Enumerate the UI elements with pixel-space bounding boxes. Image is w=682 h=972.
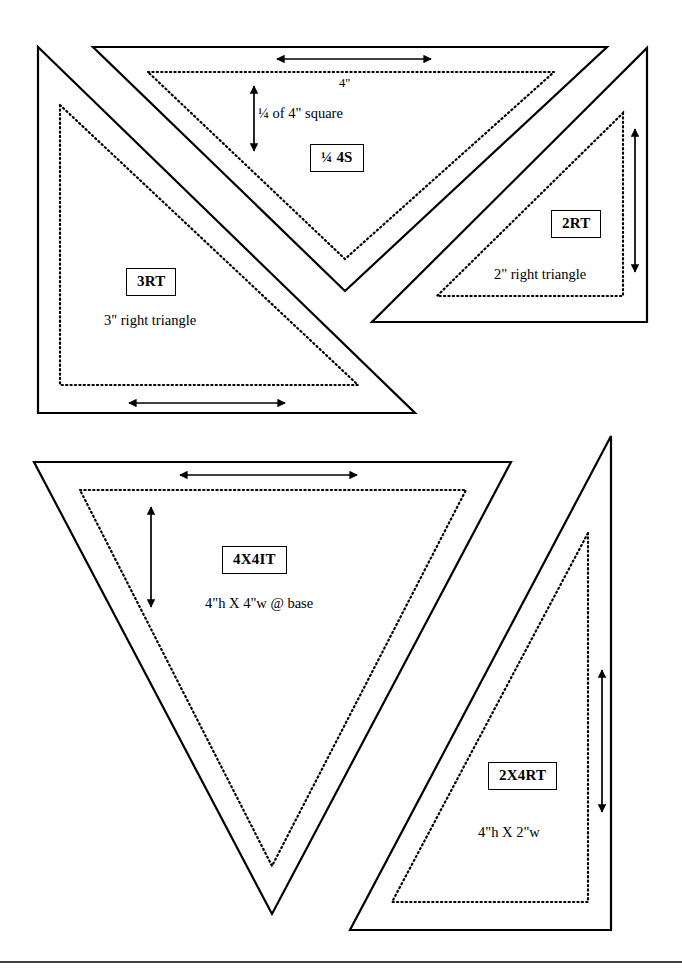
shape-4x4it-outline bbox=[34, 462, 511, 914]
shape-2rt-seam-line bbox=[437, 113, 623, 296]
shape-quarter-4s-seam-line bbox=[148, 72, 554, 259]
shape-4x4it-seam-line bbox=[80, 490, 466, 866]
shape-3rt-seam-line bbox=[60, 105, 358, 385]
shape-2x4rt-seam-line bbox=[392, 533, 588, 902]
template-sheet-page: 4" ¼ of 4" square ¼ 4S 3RT 3" right tria… bbox=[0, 0, 682, 972]
shape-3rt-outline bbox=[38, 47, 415, 413]
shape-2x4rt-outline bbox=[350, 436, 611, 930]
template-shapes-drawing bbox=[0, 0, 682, 972]
shape-2rt-outline bbox=[372, 48, 647, 322]
